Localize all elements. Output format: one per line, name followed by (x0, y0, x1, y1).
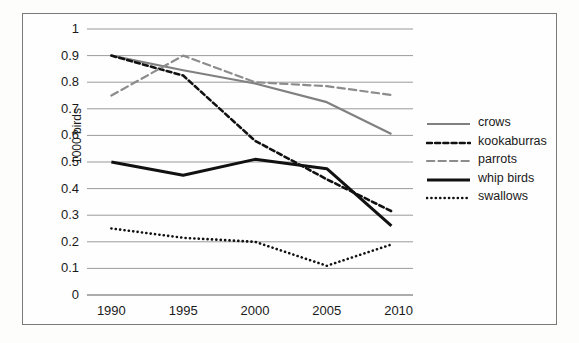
chart-frame: 1000 birds 00.10.20.30.40.50.60.70.80.91… (22, 13, 557, 325)
legend-key-icon (426, 190, 471, 202)
legend-item-parrots[interactable]: parrots (426, 150, 547, 169)
legend-label: parrots (478, 152, 517, 166)
series-line-swallows (111, 229, 391, 266)
chart-legend: crowskookaburrasparrotswhip birdsswallow… (426, 113, 547, 206)
legend-label: swallows (478, 189, 528, 203)
legend-item-swallows[interactable]: swallows (426, 187, 547, 206)
legend-item-crows[interactable]: crows (426, 113, 547, 132)
legend-key-icon (426, 135, 471, 147)
series-line-parrots (111, 56, 391, 96)
legend-key-icon (426, 116, 471, 128)
legend-label: kookaburras (478, 134, 547, 148)
legend-key-icon (426, 172, 471, 184)
series-line-whip-birds (111, 159, 391, 226)
legend-label: crows (478, 115, 511, 129)
legend-item-whip-birds[interactable]: whip birds (426, 169, 547, 188)
legend-label: whip birds (478, 171, 534, 185)
legend-key-icon (426, 153, 471, 165)
legend-item-kookaburras[interactable]: kookaburras (426, 132, 547, 151)
